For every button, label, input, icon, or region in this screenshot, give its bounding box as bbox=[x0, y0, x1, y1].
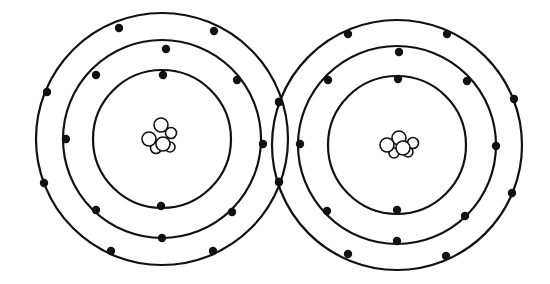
right-atom bbox=[272, 20, 522, 270]
electron bbox=[40, 179, 48, 187]
electron bbox=[492, 142, 500, 150]
nucleon bbox=[156, 137, 170, 151]
electron bbox=[159, 71, 167, 79]
nucleon bbox=[396, 141, 410, 155]
electron bbox=[510, 95, 518, 103]
electron bbox=[115, 24, 123, 32]
nucleon bbox=[380, 138, 394, 152]
electron bbox=[162, 45, 170, 53]
electron bbox=[508, 189, 516, 197]
nucleon bbox=[142, 132, 156, 146]
electron bbox=[344, 30, 352, 38]
electron bbox=[158, 234, 166, 242]
electron bbox=[43, 88, 51, 96]
electron bbox=[443, 30, 451, 38]
left-atom bbox=[36, 13, 288, 265]
electron bbox=[210, 27, 218, 35]
electron bbox=[394, 75, 402, 83]
electron bbox=[324, 76, 332, 84]
electron bbox=[442, 252, 450, 260]
nucleus bbox=[142, 118, 177, 154]
electron bbox=[395, 48, 403, 56]
electron bbox=[344, 250, 352, 258]
electron bbox=[107, 247, 115, 255]
electron bbox=[228, 208, 236, 216]
electron bbox=[393, 206, 401, 214]
covalent-bond-diagram bbox=[0, 0, 550, 284]
electron bbox=[233, 76, 241, 84]
electron bbox=[275, 98, 283, 106]
electron bbox=[209, 247, 217, 255]
electron bbox=[157, 202, 165, 210]
electron bbox=[393, 237, 401, 245]
nucleus bbox=[380, 131, 419, 158]
electron bbox=[92, 71, 100, 79]
electron bbox=[323, 207, 331, 215]
nucleon bbox=[154, 118, 168, 132]
electron bbox=[461, 212, 469, 220]
electron bbox=[62, 135, 70, 143]
electron bbox=[275, 178, 283, 186]
electron bbox=[296, 140, 304, 148]
electron bbox=[463, 77, 471, 85]
electron bbox=[92, 206, 100, 214]
electron bbox=[259, 140, 267, 148]
atoms-group bbox=[36, 13, 522, 270]
